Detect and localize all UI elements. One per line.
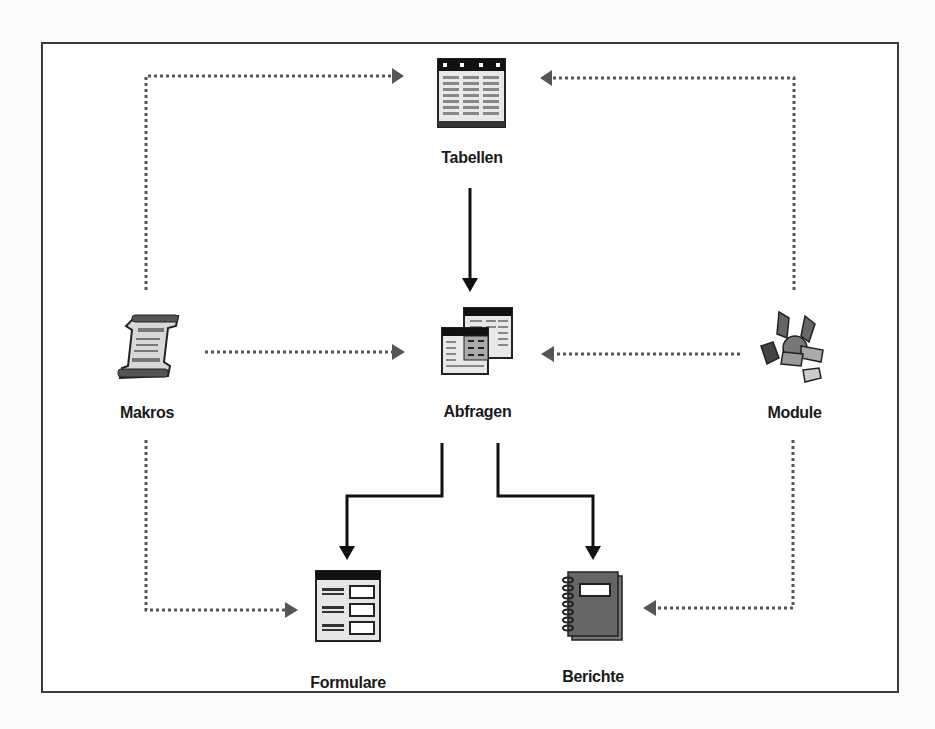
edge-makros-formulare xyxy=(146,440,288,610)
edge-module-berichte xyxy=(652,440,793,608)
node-label: Berichte xyxy=(562,668,624,686)
node-formulare: Formulare xyxy=(315,570,381,690)
arrowhead-right-icon xyxy=(285,602,298,618)
arrowhead-down-icon xyxy=(339,546,355,560)
node-label: Abfragen xyxy=(444,403,512,421)
node-label: Makros xyxy=(120,404,174,422)
node-tabellen: Tabellen xyxy=(437,58,507,178)
edge-module-tabellen xyxy=(550,78,794,290)
arrowhead-down-icon xyxy=(585,546,601,560)
module-icon xyxy=(757,308,832,388)
arrowhead-right-icon xyxy=(392,344,405,360)
node-module: Module xyxy=(757,308,832,423)
edge-abfragen-berichte xyxy=(498,443,593,548)
table-icon xyxy=(437,58,507,130)
arrowhead-left-icon xyxy=(540,70,552,86)
edge-makros-tabellen xyxy=(146,76,394,290)
arrowhead-right-icon xyxy=(392,68,404,84)
node-makros: Makros xyxy=(112,312,182,422)
macro-scroll-icon xyxy=(112,312,182,384)
form-icon xyxy=(315,570,381,642)
node-label: Module xyxy=(767,404,821,422)
arrowhead-left-icon xyxy=(541,346,554,362)
node-label: Formulare xyxy=(310,674,386,692)
query-icon xyxy=(440,306,515,378)
arrowhead-down-icon xyxy=(462,278,478,292)
edge-abfragen-formulare xyxy=(347,443,442,548)
node-label: Tabellen xyxy=(441,149,502,167)
node-berichte: Berichte xyxy=(560,570,626,690)
node-abfragen: Abfragen xyxy=(440,306,515,426)
arrowhead-left-icon xyxy=(643,600,656,616)
report-icon xyxy=(560,570,626,644)
